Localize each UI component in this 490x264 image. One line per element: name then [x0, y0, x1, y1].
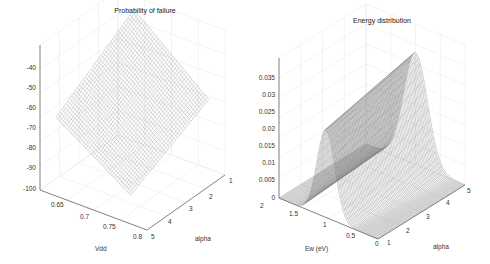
z-tick: -90: [6, 164, 36, 171]
y-tick: 4: [168, 218, 172, 225]
y-tick: 1: [387, 239, 391, 246]
z-tick: 0: [245, 194, 275, 201]
energy-distribution-plot: Energy distribution 0.035 0.03 0.025 0.0…: [245, 0, 490, 264]
y-tick: 3: [426, 213, 430, 220]
probability-of-failure-plot: Probability of failure -40 -50 -60 -70 -…: [0, 0, 245, 264]
z-tick: -70: [6, 124, 36, 131]
y-tick: 2: [406, 227, 410, 234]
x-axis-label: Vdd: [95, 245, 107, 252]
probability-surface-canvas: [0, 0, 245, 264]
x-tick: 0.8: [133, 233, 142, 240]
x-tick: 1.5: [289, 210, 298, 217]
y-tick: 2: [209, 193, 213, 200]
y-axis-label: alpha: [433, 243, 449, 250]
z-tick: 0.03: [245, 91, 275, 98]
x-tick: 1: [323, 221, 327, 228]
x-tick: 0.65: [51, 201, 64, 208]
y-tick: 3: [189, 205, 193, 212]
z-tick: -60: [6, 104, 36, 111]
x-tick: 0.75: [103, 223, 116, 230]
z-tick: 0.005: [245, 176, 275, 183]
z-tick: -80: [6, 144, 36, 151]
y-tick: 5: [467, 187, 471, 194]
y-tick: 5: [151, 233, 155, 240]
plot-title: Probability of failure: [114, 7, 175, 14]
x-tick: 0.7: [80, 213, 89, 220]
z-tick: 0.025: [245, 108, 275, 115]
x-tick: 0: [375, 240, 379, 247]
z-tick: -100: [6, 185, 36, 192]
y-axis-label: alpha: [195, 235, 211, 242]
y-tick: 4: [446, 199, 450, 206]
z-tick: 0.035: [245, 74, 275, 81]
plot-title: Energy distribution: [353, 17, 411, 24]
energy-surface-canvas: [245, 0, 490, 264]
x-axis-label: Ew (eV): [305, 245, 328, 252]
z-tick: 0.02: [245, 125, 275, 132]
x-tick: 0.5: [346, 232, 355, 239]
z-tick: -50: [6, 84, 36, 91]
z-tick: 0.01: [245, 159, 275, 166]
z-tick: -40: [6, 64, 36, 71]
y-tick: 1: [229, 177, 233, 184]
z-tick: 0.015: [245, 142, 275, 149]
x-tick: 2: [260, 202, 264, 209]
